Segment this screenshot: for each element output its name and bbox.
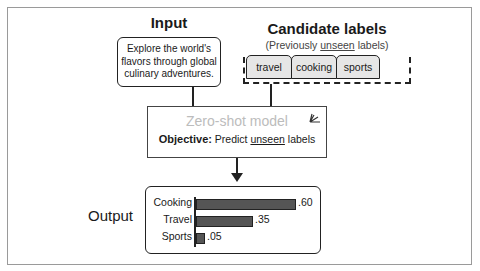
bar-cooking [196,199,296,210]
model-title: Zero-shot model [148,113,326,129]
output-title: Output [88,207,133,224]
input-line-1: Explore the world's [118,43,220,56]
objective-post: labels [285,133,315,145]
connector-input-to-model [192,87,194,106]
subtitle-unseen: unseen [320,39,354,51]
candidates-subtitle: (Previously unseen labels) [243,39,411,51]
input-text-box: Explore the world's flavors through glob… [117,37,221,87]
bar-value-travel: .35 [255,213,270,225]
bar-travel [196,216,253,227]
bar-sports [196,233,205,244]
objective-unseen: unseen [250,133,284,145]
bar-value-cooking: .60 [298,196,313,208]
bar-label-cooking: Cooking [144,196,192,208]
input-line-3: culinary adventures. [118,68,220,81]
input-line-2: flavors through global [118,56,220,69]
candidates-title: Candidate labels [243,20,411,37]
bar-label-travel: Travel [144,213,192,225]
sparkle-icon [309,111,321,123]
bar-value-sports: .05 [207,230,222,242]
bar-label-sports: Sports [144,230,192,242]
label-tab-sports: sports [336,55,380,79]
label-tab-travel: travel [246,55,292,79]
label-tab-cooking: cooking [291,55,337,79]
output-chart-box: Cooking .60 Travel .35 Sports .05 [145,186,321,254]
subtitle-post: labels) [355,39,389,51]
connector-labels-to-model [270,84,272,106]
subtitle-pre: (Previously [265,39,320,51]
input-title: Input [117,14,221,31]
model-objective: Objective: Predict unseen labels [148,133,326,145]
zero-shot-model-box: Zero-shot model Objective: Predict unsee… [147,106,327,158]
objective-pre: Predict [212,133,251,145]
arrow-down-icon [231,173,243,182]
objective-label: Objective: [159,133,212,145]
